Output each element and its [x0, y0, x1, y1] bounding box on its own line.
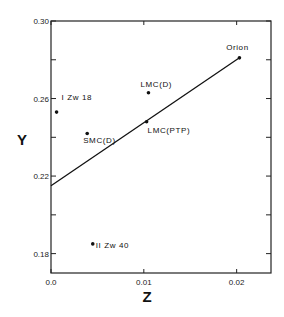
data-point-label: SMC(D)	[83, 136, 115, 145]
y-tick-label: 0.22	[33, 172, 49, 181]
y-axis-ticks: 0.180.220.260.30	[33, 17, 271, 259]
data-points: I Zw 18SMC(D)LMC(D)LMC(PTP)II Zw 40Orion	[55, 43, 249, 250]
y-tick-label: 0.18	[33, 250, 49, 259]
x-tick-label: 0.01	[136, 278, 152, 287]
data-point-marker	[55, 110, 59, 114]
data-point-label: Orion	[226, 43, 249, 52]
data-point-marker	[85, 132, 89, 136]
data-point-marker	[91, 242, 95, 246]
x-tick-label: 0.0	[45, 278, 57, 287]
y-tick-label: 0.26	[33, 95, 49, 104]
y-tick-label: 0.30	[33, 17, 49, 26]
data-point-marker	[145, 120, 149, 124]
data-point-label: II Zw 40	[96, 241, 129, 250]
y-axis-title: Y	[17, 131, 27, 148]
data-point-label: I Zw 18	[62, 93, 92, 102]
x-axis-title: Z	[142, 288, 151, 305]
x-axis-ticks: 0.00.010.02	[45, 21, 245, 287]
data-point-label: LMC(PTP)	[148, 126, 191, 135]
data-point-label: LMC(D)	[140, 80, 172, 89]
data-point-marker	[147, 91, 151, 95]
scatter-chart: 0.00.010.02 0.180.220.260.30 I Zw 18SMC(…	[0, 0, 284, 317]
data-point-marker	[238, 56, 242, 60]
x-tick-label: 0.02	[229, 278, 245, 287]
